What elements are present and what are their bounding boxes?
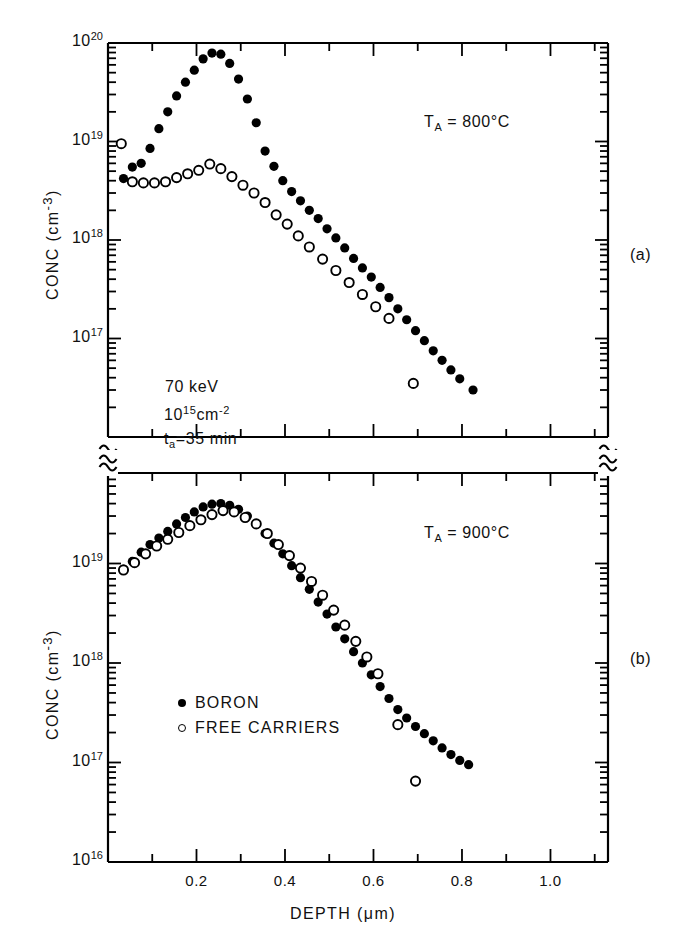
- data-point: [349, 647, 358, 656]
- annotation-implant-dose: 1015cm-2: [164, 404, 230, 424]
- data-point: [249, 188, 258, 197]
- data-point: [190, 507, 199, 516]
- y-tick-label-b-1e16: 1016: [55, 849, 103, 869]
- data-point: [429, 346, 438, 355]
- x-tick-label: 0.4: [267, 872, 303, 889]
- figure-root: 1020 1019 1018 1017 1019 1018 1017 1016 …: [0, 0, 684, 950]
- data-point: [331, 266, 340, 275]
- y-tick-label-a-1e20: 1020: [55, 30, 103, 50]
- x-tick-label: 1.0: [532, 872, 568, 889]
- data-point: [207, 48, 216, 57]
- data-point: [446, 365, 455, 374]
- data-point: [119, 565, 128, 574]
- data-point: [181, 78, 190, 87]
- data-point: [455, 374, 464, 383]
- y-tick-label-b-1e19: 1019: [55, 551, 103, 571]
- data-point: [340, 634, 349, 643]
- data-point: [429, 736, 438, 745]
- data-point: [411, 722, 420, 731]
- data-point: [411, 777, 420, 786]
- data-point: [137, 159, 146, 168]
- panel-b-free-carriers-series: [119, 506, 420, 786]
- data-point: [207, 500, 216, 509]
- data-point: [161, 177, 170, 186]
- data-point: [145, 144, 154, 153]
- data-point: [446, 750, 455, 759]
- data-point: [141, 549, 150, 558]
- data-point: [384, 293, 393, 302]
- data-point: [367, 273, 376, 282]
- filled-circle-icon: [178, 699, 186, 707]
- legend-item-boron: BORON: [178, 694, 260, 712]
- y-tick-label-a-1e19: 1019: [55, 129, 103, 149]
- data-point: [371, 302, 380, 311]
- legend-label-boron: BORON: [195, 694, 260, 712]
- data-point: [172, 91, 181, 100]
- data-point: [252, 519, 261, 528]
- x-tick-label: 0.2: [178, 872, 214, 889]
- data-point: [243, 94, 252, 103]
- data-point: [351, 637, 360, 646]
- data-point: [196, 515, 205, 524]
- data-point: [384, 314, 393, 323]
- data-point: [437, 743, 446, 752]
- data-point: [278, 176, 287, 185]
- data-point: [402, 315, 411, 324]
- data-point: [296, 196, 305, 205]
- y-tick-label-a-1e17: 1017: [55, 326, 103, 346]
- data-point: [154, 124, 163, 133]
- data-point: [260, 198, 269, 207]
- data-point: [199, 502, 208, 511]
- data-point: [174, 528, 183, 537]
- legend-label-free-carriers: FREE CARRIERS: [195, 719, 340, 737]
- data-point: [329, 606, 338, 615]
- data-point: [322, 224, 331, 233]
- data-point: [172, 173, 181, 182]
- data-point: [314, 214, 323, 223]
- panel-tag-a: (a): [630, 246, 651, 264]
- data-point: [296, 573, 305, 582]
- data-point: [437, 356, 446, 365]
- data-point: [468, 385, 477, 394]
- data-point: [272, 210, 281, 219]
- data-point: [218, 506, 227, 515]
- annotation-anneal-temp-900: TA = 900°C: [424, 524, 510, 544]
- data-point: [283, 220, 292, 229]
- x-tick-label: 0.8: [444, 872, 480, 889]
- open-circle-icon: [178, 724, 186, 732]
- y-tick-label-b-1e17: 1017: [55, 750, 103, 770]
- data-point: [150, 178, 159, 187]
- data-point: [194, 166, 203, 175]
- annotation-implant-energy: 70 keV: [165, 378, 218, 396]
- data-point: [119, 174, 128, 183]
- data-point: [331, 233, 340, 242]
- data-point: [393, 705, 402, 714]
- data-point: [358, 290, 367, 299]
- data-point: [216, 50, 225, 59]
- axis-break-right-b-mask: [598, 450, 618, 476]
- data-point: [260, 146, 269, 155]
- data-point: [190, 66, 199, 75]
- data-point: [163, 107, 172, 116]
- data-point: [305, 242, 314, 251]
- legend-item-free-carriers: FREE CARRIERS: [178, 719, 340, 737]
- data-point: [376, 283, 385, 292]
- data-point: [358, 263, 367, 272]
- data-point: [163, 535, 172, 544]
- data-point: [376, 682, 385, 691]
- data-point: [318, 254, 327, 263]
- data-point: [307, 577, 316, 586]
- data-point: [274, 540, 283, 549]
- panel-tag-b: (b): [630, 650, 651, 668]
- data-point: [373, 669, 382, 678]
- annotation-anneal-temp-800: TA = 800°C: [424, 113, 510, 133]
- data-point: [384, 694, 393, 703]
- data-point: [340, 621, 349, 630]
- data-point: [345, 278, 354, 287]
- data-point: [287, 561, 296, 570]
- data-point: [294, 231, 303, 240]
- data-point: [225, 59, 234, 68]
- data-point: [152, 541, 161, 550]
- data-point: [393, 720, 402, 729]
- data-point: [296, 563, 305, 572]
